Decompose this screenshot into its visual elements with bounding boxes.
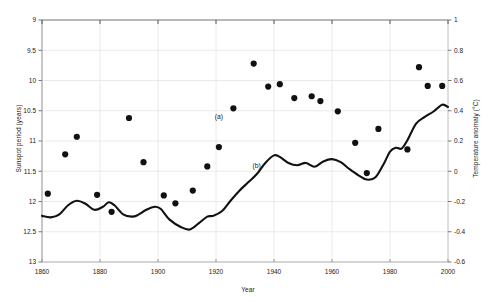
data-point-marker (126, 115, 132, 121)
y-tick-label-left: 9.5 (27, 47, 36, 54)
data-point-marker (94, 192, 100, 198)
y-axis-right-title: Temperature anomaly (°C) (472, 79, 479, 199)
data-point-marker (140, 159, 146, 165)
data-point-marker (291, 95, 297, 101)
data-point-marker (265, 83, 271, 89)
data-point-marker (439, 83, 445, 89)
y-tick-label-right: 1 (454, 16, 458, 23)
data-point-marker (335, 108, 341, 114)
data-point-marker (352, 140, 358, 146)
data-point-marker (425, 83, 431, 89)
data-point-marker (364, 170, 370, 176)
y-axis-left-title: Sunspot period (years) (15, 84, 22, 194)
y-tick-label-left: 10 (29, 77, 37, 84)
data-point-marker (416, 64, 422, 70)
x-tick-label: 1960 (325, 268, 340, 275)
x-tick-label: 1860 (35, 268, 50, 275)
x-tick-label: 2000 (441, 268, 456, 275)
y-tick-label-right: 0.8 (454, 47, 463, 54)
y-tick-label-right: 0.6 (454, 77, 463, 84)
x-axis-ticks: 18601880190019201940196019802000 (35, 20, 456, 275)
gridlines (42, 20, 448, 262)
temperature-anomaly-line (42, 105, 448, 230)
data-point-marker (251, 60, 257, 66)
y-tick-label-left: 12 (29, 198, 37, 205)
series-annotation-label: (a) (215, 113, 223, 121)
y-tick-label-right: 0.2 (454, 137, 463, 144)
data-point-marker (309, 93, 315, 99)
data-point-marker (172, 200, 178, 206)
y-tick-label-right: -0.4 (454, 228, 466, 235)
y-tick-label-left: 13 (29, 258, 37, 265)
data-point-marker (375, 126, 381, 132)
series-annotation-label: (b) (252, 162, 260, 170)
sunspot-period-points (45, 60, 446, 214)
scatter-line-chart: 18601880190019201940196019802000 99.5101… (0, 0, 496, 302)
y-tick-label-left: 11.5 (24, 168, 37, 175)
data-point-marker (230, 105, 236, 111)
data-point-marker (62, 151, 68, 157)
x-axis-title: Year (0, 286, 496, 293)
y-tick-label-left: 10.5 (23, 107, 36, 114)
y-tick-label-right: -0.6 (454, 258, 466, 265)
data-point-marker (277, 81, 283, 87)
data-point-marker (45, 191, 51, 197)
chart-figure: 18601880190019201940196019802000 99.5101… (0, 0, 496, 302)
data-point-marker (74, 134, 80, 140)
x-tick-label: 1940 (267, 268, 282, 275)
y-axis-right-ticks: 10.80.60.40.20-0.2-0.4-0.6 (448, 16, 466, 265)
y-tick-label-left: 12.5 (23, 228, 36, 235)
x-tick-label: 1900 (151, 268, 166, 275)
y-tick-label-right: 0.4 (454, 107, 463, 114)
data-point-marker (216, 144, 222, 150)
data-point-marker (404, 146, 410, 152)
data-point-marker (190, 188, 196, 194)
x-tick-label: 1980 (383, 268, 398, 275)
data-point-marker (109, 209, 115, 215)
y-tick-label-right: 0 (454, 168, 458, 175)
y-tick-label-left: 9 (32, 16, 36, 23)
y-tick-label-right: -0.2 (454, 198, 466, 205)
x-tick-label: 1920 (209, 268, 224, 275)
temperature-anomaly-curve (42, 105, 448, 230)
data-point-marker (161, 192, 167, 198)
series-annotations: (a)(b) (215, 113, 261, 171)
x-tick-label: 1880 (93, 268, 108, 275)
data-point-marker (204, 163, 210, 169)
y-axis-left-ticks: 99.51010.51111.51212.513 (23, 16, 42, 265)
data-point-marker (317, 98, 323, 104)
y-tick-label-left: 11 (29, 137, 36, 144)
